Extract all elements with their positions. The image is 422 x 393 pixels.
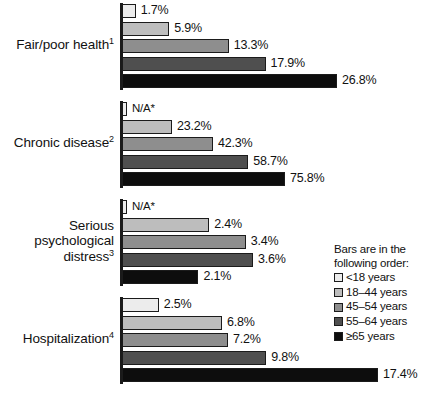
bar-value-label: 17.9%: [271, 56, 305, 71]
bar: [122, 368, 378, 382]
bar-value-label: 42.3%: [218, 136, 252, 151]
legend-swatch-icon: [334, 317, 343, 326]
bar-value-label: 7.2%: [233, 332, 261, 347]
bar: [122, 22, 169, 36]
legend-items: <18 years18–44 years45–54 years55–64 yea…: [334, 271, 422, 343]
bar-value-label: 2.5%: [164, 297, 192, 312]
bar-value-label: 1.7%: [141, 3, 169, 18]
bar: [122, 102, 127, 116]
legend-title-line1: Bars are in the: [334, 243, 422, 257]
legend-swatch-icon: [334, 332, 343, 341]
group-label-footnote: 1: [109, 36, 114, 46]
legend-item-label: <18 years: [346, 271, 395, 285]
bar: [122, 120, 172, 134]
bar: [122, 333, 228, 347]
bar: [122, 270, 198, 284]
bar: [122, 298, 159, 312]
bar: [122, 351, 266, 365]
bar: [122, 200, 127, 214]
legend-item-label: 45–54 years: [346, 300, 407, 314]
legend-item: 55–64 years: [334, 315, 422, 329]
legend-item-label: 18–44 years: [346, 286, 407, 300]
bar-value-label: 75.8%: [290, 171, 324, 186]
bar: [122, 4, 136, 18]
bar-value-label: 6.8%: [227, 315, 255, 330]
bar-value-label: 26.8%: [342, 73, 376, 88]
bar: [122, 218, 209, 232]
group-label-line: Hospitalization4: [0, 331, 114, 347]
chart-legend: Bars are in the following order: <18 yea…: [334, 243, 422, 343]
legend-title-line2: following order:: [334, 257, 422, 271]
bar-value-label: 13.3%: [234, 38, 268, 53]
chart-group: Fair/poor health11.7%5.9%13.3%17.9%26.8%: [0, 4, 422, 88]
bar: [122, 57, 266, 71]
bar-chart: Fair/poor health11.7%5.9%13.3%17.9%26.8%…: [0, 0, 422, 393]
group-label-line: Fair/poor health1: [0, 37, 114, 53]
legend-item: 18–44 years: [334, 286, 422, 300]
bar: [122, 137, 213, 151]
group-label-line: psychological: [0, 233, 114, 249]
group-label-line: Serious: [0, 218, 114, 234]
legend-item: 45–54 years: [334, 300, 422, 314]
bar: [122, 235, 246, 249]
bar-value-label: 2.4%: [214, 217, 242, 232]
bar-value-label: 3.4%: [251, 234, 279, 249]
legend-swatch-icon: [334, 273, 343, 282]
bar: [122, 39, 229, 53]
legend-swatch-icon: [334, 288, 343, 297]
legend-item: ≥65 years: [334, 330, 422, 344]
bar: [122, 253, 253, 267]
legend-swatch-icon: [334, 303, 343, 312]
bar-value-label: 5.9%: [174, 21, 202, 36]
group-label: Chronic disease2: [0, 135, 114, 151]
bar: [122, 74, 337, 88]
bar: [122, 172, 285, 186]
chart-group: Chronic disease2N/A*23.2%42.3%58.7%75.8%: [0, 102, 422, 186]
group-label-footnote: 2: [109, 134, 114, 144]
bar: [122, 316, 222, 330]
bar-value-label: 23.2%: [177, 119, 211, 134]
bar-value-label: 9.8%: [271, 350, 299, 365]
group-label: Fair/poor health1: [0, 37, 114, 53]
bar-value-label: 3.6%: [258, 252, 286, 267]
bar: [122, 155, 248, 169]
bar-value-label: 58.7%: [253, 154, 287, 169]
bar-value-label: N/A*: [132, 101, 155, 116]
group-label-footnote: 3: [109, 247, 114, 257]
group-label-line: Chronic disease2: [0, 135, 114, 151]
group-label-line: distress3: [0, 249, 114, 265]
bar-value-label: N/A*: [132, 199, 155, 214]
legend-item-label: 55–64 years: [346, 315, 407, 329]
legend-item: <18 years: [334, 271, 422, 285]
bar-value-label: 2.1%: [203, 269, 231, 284]
group-label-footnote: 4: [109, 330, 114, 340]
legend-item-label: ≥65 years: [346, 330, 395, 344]
group-label: Hospitalization4: [0, 331, 114, 347]
group-label: Seriouspsychologicaldistress3: [0, 218, 114, 265]
bar-value-label: 17.4%: [383, 367, 417, 382]
